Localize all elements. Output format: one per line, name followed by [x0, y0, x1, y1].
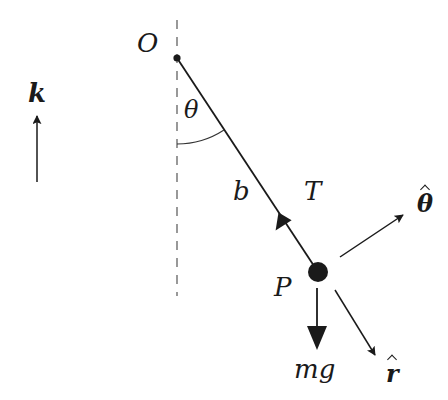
r-hat-text: r	[386, 362, 399, 386]
k-label-text: k	[28, 78, 46, 108]
bob-label: P	[274, 274, 292, 300]
pivot-point	[173, 54, 180, 61]
k-unit-vector-label: k	[28, 80, 46, 106]
angle-arc	[177, 130, 224, 144]
r-hat-unit-vector-arrow	[335, 290, 375, 355]
pendulum-bob	[308, 262, 328, 282]
pendulum-rod	[177, 58, 318, 272]
weight-arrowhead-icon	[307, 326, 327, 350]
pivot-label: O	[137, 30, 158, 56]
rod-length-label: b	[233, 178, 250, 204]
angle-label: θ	[184, 98, 198, 122]
weight-label: mg	[294, 356, 335, 382]
tension-label: T	[304, 178, 321, 204]
r-hat-label: r	[386, 362, 399, 386]
theta-hat-unit-vector-arrow	[340, 215, 403, 257]
theta-hat-text: θ	[417, 192, 433, 216]
pendulum-diagram	[0, 0, 448, 400]
theta-hat-label: θ	[417, 192, 433, 216]
